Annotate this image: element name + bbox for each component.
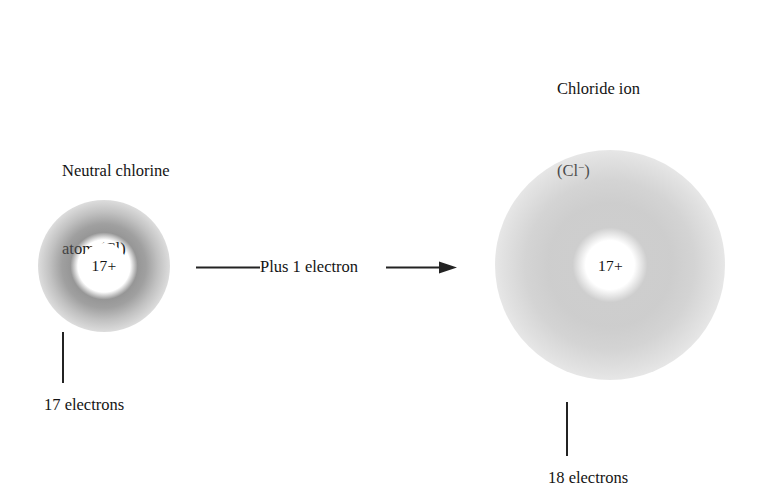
leader-line-right [566, 402, 568, 456]
reaction-arrow-label: Plus 1 electron [260, 252, 358, 282]
chlorine-ion-formation-diagram: Neutral chlorine atom (Cl) 17+ 17 electr… [0, 0, 760, 500]
chloride-ion-label-line1: Chloride ion [557, 76, 640, 102]
reaction-arrow: Plus 1 electron [196, 252, 458, 284]
chloride-formula-suffix: ) [584, 161, 590, 180]
electron-count-right: 18 electrons [548, 465, 628, 491]
chloride-formula-prefix: (Cl [557, 161, 578, 180]
chloride-ion-label-line2: (Cl−) [557, 154, 640, 184]
arrow-head-icon [439, 262, 457, 274]
chloride-ion-label: Chloride ion (Cl−) [557, 24, 640, 236]
nucleus-right-charge: 17+ [598, 257, 623, 275]
electron-count-left: 17 electrons [44, 392, 124, 418]
neutral-atom-label-line1: Neutral chlorine [62, 158, 170, 184]
nucleus-left-charge: 17+ [92, 257, 117, 275]
nucleus-left: 17+ [81, 243, 127, 289]
leader-line-left [62, 332, 64, 383]
nucleus-right: 17+ [588, 243, 633, 288]
